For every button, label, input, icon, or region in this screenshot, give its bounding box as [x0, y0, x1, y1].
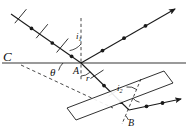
dot-marker: [102, 84, 106, 88]
refraction-angle-arc-at-b: [133, 98, 140, 102]
exit-ray: [129, 99, 181, 110]
glass-slab: [67, 71, 173, 120]
dot-marker: [50, 41, 54, 45]
dot-marker: [144, 24, 148, 28]
glass-slab-body: [67, 71, 173, 120]
label-angle-i1: i1: [76, 32, 82, 42]
angle-i1-arc: [70, 44, 81, 51]
label-point-a: A: [73, 66, 79, 76]
theta-angle-arc: [59, 63, 63, 71]
label-angle-r: r: [86, 74, 90, 83]
label-angle-i2-subscript: 2: [120, 88, 123, 94]
optics-ray-diagram: C A B θ r i1 i2: [0, 0, 188, 139]
label-angle-i2: i2: [117, 84, 123, 94]
reflected-ray: [81, 9, 175, 63]
dot-marker: [30, 27, 34, 31]
diagram-canvas: [0, 0, 188, 139]
label-point-c: C: [3, 50, 12, 63]
label-angle-i1-subscript: 1: [79, 36, 82, 42]
dot-marker: [122, 36, 126, 40]
dot-marker: [101, 49, 105, 53]
label-angle-theta: θ: [50, 67, 55, 78]
label-point-b: B: [128, 118, 134, 128]
incident-ray-polarization-markers: [15, 9, 74, 58]
dot-marker: [70, 54, 74, 58]
dot-marker: [145, 104, 149, 108]
dot-marker: [161, 101, 165, 105]
